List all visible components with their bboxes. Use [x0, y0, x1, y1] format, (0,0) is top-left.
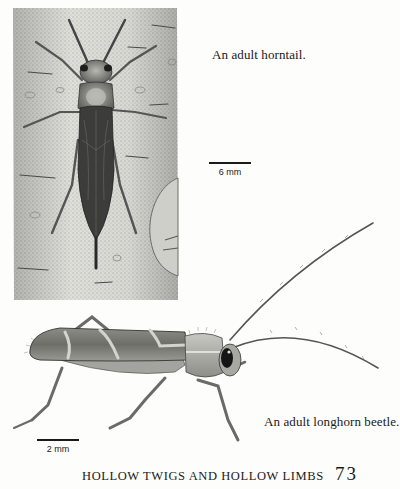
longhorn-scale-bar: 2 mm [37, 439, 79, 454]
longhorn-beetle [14, 223, 378, 440]
horntail-scale-bar: 6 mm [209, 162, 251, 177]
horntail-caption: An adult horntail. [212, 47, 306, 63]
longhorn-caption: An adult longhorn beetle. [264, 414, 399, 430]
page-number: 73 [335, 463, 358, 485]
scale-bar-label: 2 mm [37, 444, 79, 454]
scale-bar-line [209, 162, 251, 164]
running-head: HOLLOW TWIGS AND HOLLOW LIMBS [82, 469, 324, 484]
scale-bar-label: 6 mm [209, 167, 251, 177]
scale-bar-line [37, 439, 79, 441]
